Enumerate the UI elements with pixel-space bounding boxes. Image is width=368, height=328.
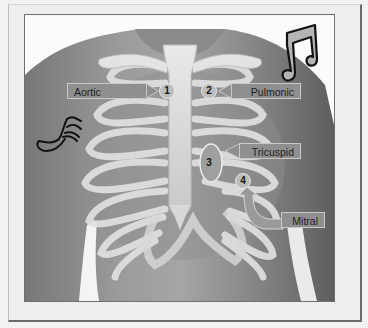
point-4-marker: 4	[235, 173, 251, 189]
label-mitral: Mitral	[281, 212, 325, 228]
label-tricuspid: Tricuspid	[239, 143, 301, 159]
label-aortic: Aortic	[67, 83, 147, 99]
point-2-marker: 2	[201, 83, 217, 99]
chest-illustration: Aortic 1 2 Pulmonic 3 Tricuspid 4 Mitral	[24, 14, 335, 302]
point-3-marker: 3	[202, 156, 216, 170]
label-pulmonic: Pulmonic	[231, 83, 301, 99]
point-1-marker: 1	[159, 83, 175, 99]
